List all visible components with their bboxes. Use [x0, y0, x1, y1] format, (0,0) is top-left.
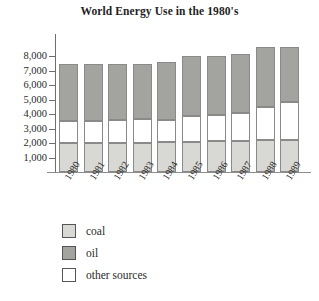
legend-swatch-other-sources	[62, 268, 76, 282]
y-axis-tick-label: 8,000	[3, 51, 47, 61]
y-axis-tick	[49, 143, 56, 144]
bar-segment-oil	[108, 64, 127, 120]
bar-segment-other-sources	[182, 116, 201, 142]
y-axis-tick-label: 3,000	[3, 124, 47, 134]
bar-segment-other-sources	[207, 115, 226, 141]
legend-swatch-oil	[62, 246, 76, 260]
y-axis-tick	[49, 100, 56, 101]
bar-segment-other-sources	[280, 102, 299, 140]
y-axis-line	[55, 34, 56, 173]
bar-1980	[59, 36, 78, 172]
legend-item-oil: oil	[62, 242, 147, 264]
bar-1981	[84, 36, 103, 172]
bar-segment-oil	[231, 54, 250, 113]
bar-1988	[256, 36, 275, 172]
bar-segment-oil	[133, 64, 152, 119]
bar-1982	[108, 36, 127, 172]
bar-segment-oil	[256, 47, 275, 106]
y-axis-tick-label: 1,000	[3, 153, 47, 163]
y-axis-tick-label: 7,000	[3, 66, 47, 76]
bar-segment-other-sources	[256, 107, 275, 140]
legend-item-coal: coal	[62, 220, 147, 242]
bar-segment-other-sources	[59, 121, 78, 143]
legend-item-other-sources: other sources	[62, 264, 147, 286]
bar-segment-other-sources	[133, 119, 152, 143]
bar-segment-oil	[207, 56, 226, 115]
y-axis-tick-label: 6,000	[3, 80, 47, 90]
bar-segment-other-sources	[157, 120, 176, 142]
bar-1987	[231, 36, 250, 172]
y-axis-tick	[49, 158, 56, 159]
legend-swatch-coal	[62, 224, 76, 238]
bar-segment-oil	[182, 56, 201, 116]
bar-1986	[207, 36, 226, 172]
legend-label: other sources	[86, 269, 147, 281]
bar-1989	[280, 36, 299, 172]
legend-label: coal	[86, 225, 105, 237]
y-axis-tick	[49, 56, 56, 57]
bar-segment-oil	[84, 64, 103, 121]
y-axis-tick	[49, 129, 56, 130]
y-axis-tick	[49, 114, 56, 115]
bar-segment-oil	[59, 64, 78, 121]
bar-segment-oil	[157, 62, 176, 120]
bar-segment-oil	[280, 47, 299, 102]
y-axis-tick-label: 5,000	[3, 95, 47, 105]
y-axis-tick	[49, 85, 56, 86]
bar-1984	[157, 36, 176, 172]
chart-figure: World Energy Use in the 1980's 1,0002,00…	[0, 0, 319, 301]
bar-segment-other-sources	[84, 121, 103, 143]
legend-label: oil	[86, 247, 98, 259]
y-axis-tick	[49, 71, 56, 72]
chart-title: World Energy Use in the 1980's	[0, 5, 319, 17]
y-axis-tick-label: 4,000	[3, 109, 47, 119]
bar-1985	[182, 36, 201, 172]
y-axis-tick-label: 2,000	[3, 138, 47, 148]
bar-1983	[133, 36, 152, 172]
bar-segment-other-sources	[108, 120, 127, 143]
bar-segment-other-sources	[231, 113, 250, 141]
chart-legend: coaloilother sources	[62, 220, 147, 286]
plot-area	[57, 36, 305, 172]
